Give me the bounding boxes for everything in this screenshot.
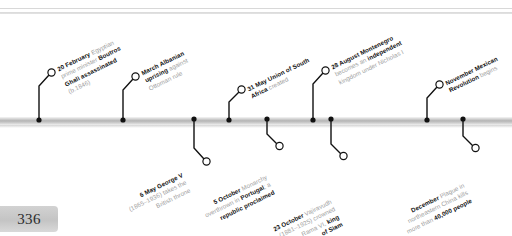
page-number-badge: 336: [0, 206, 58, 232]
marker-stem-icon: [418, 74, 448, 122]
event-label-mexican-revolution: November Mexican Revolution begins: [444, 55, 503, 95]
event-label-george-v-throne: 6 May George V (1865–1936) takes the Bri…: [124, 171, 192, 221]
page-top-rule: [0, 8, 512, 9]
event-label-montenegro-kingdom: 28 August Montenegro becomes an independ…: [330, 32, 407, 87]
marker-stem-icon: [30, 60, 60, 122]
event-label-union-of-south-africa: 31 May Union of South Africa created: [246, 56, 314, 101]
event-label-rama-vi-siam: 23 October Vajiravudh (1881–1925) crowne…: [272, 198, 344, 236]
page-top-rule-inner: [0, 12, 512, 14]
event-label-boutros-ghali-assassinated: 20 February Egyptian prime minister Bout…: [56, 37, 130, 96]
event-label-manchurian-plague: December Plague in northeastern China ki…: [398, 182, 473, 236]
page-number-text: 336: [17, 211, 40, 228]
event-label-portugal-republic: 5 October Monarchy overthrown in Portuga…: [200, 173, 276, 227]
timeline-axis-shadow: [0, 125, 512, 128]
event-label-albanian-uprising: March Albanian uprising against Ottoman …: [140, 49, 193, 92]
timeline-page: 20 February Egyptian prime minister Bout…: [0, 0, 512, 236]
timeline-axis-bar: [0, 117, 512, 125]
